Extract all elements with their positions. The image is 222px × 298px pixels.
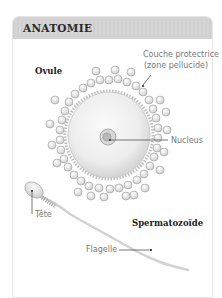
couche-pointer-dot [142,85,144,87]
label-nucleus: Nucleus [171,136,203,146]
label-flagelle: Flagelle [86,245,117,255]
flagelle-pointer-dot [150,249,152,251]
label-couche-line1: Couche protectrice [143,50,219,60]
label-spermatozoide: Spermatozoïde [132,218,203,228]
label-tete: Tête [35,210,52,220]
couche-leader-line [143,75,151,85]
label-couche-line2: (zone pellucide) [144,61,208,71]
label-ovule: Ovule [35,66,62,76]
flagellum [40,196,188,270]
